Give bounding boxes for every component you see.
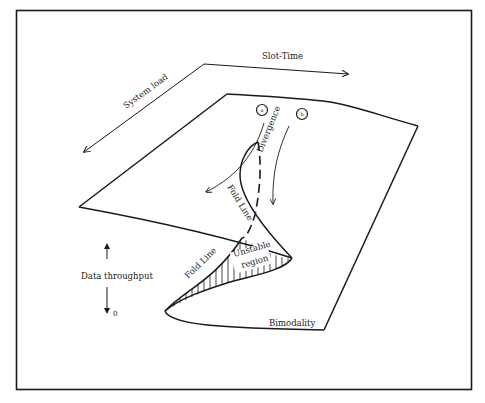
divergence-paths — [206, 123, 289, 204]
fold-line-upper-label: Fold Line — [225, 183, 255, 222]
slot-time-label: Slot-Time — [262, 51, 303, 61]
cusp-catastrophe-diagram: Slot-Time System load — [0, 0, 485, 403]
throughput-zero-label: 0 — [113, 310, 117, 318]
svg-text:a: a — [261, 107, 264, 113]
slot-time-axis: Slot-Time — [204, 51, 348, 74]
svg-text:b: b — [300, 111, 303, 117]
data-throughput-label: Data throughput — [81, 271, 153, 281]
marker-a: a — [257, 105, 268, 116]
divergence-label: Divergence — [255, 104, 283, 153]
system-load-label: System load — [121, 71, 170, 110]
bimodality-label: Bimodality — [269, 318, 316, 328]
system-load-axis: System load — [84, 64, 204, 152]
marker-b: b — [297, 109, 308, 120]
fold-line-lower-label: Fold Line — [182, 245, 218, 280]
